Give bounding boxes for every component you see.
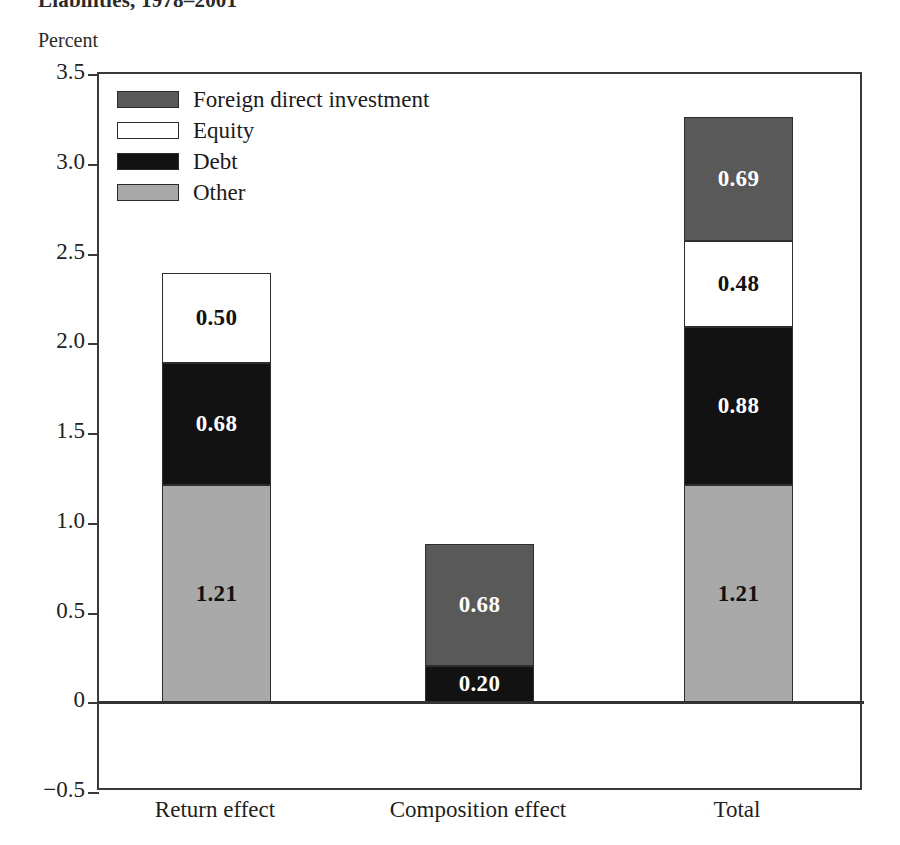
y-axis-tick-label: 0.5 (5, 598, 85, 624)
bar-segment-other[interactable]: 1.21 (162, 485, 271, 702)
y-axis-tick-label: 3.5 (5, 59, 85, 85)
bar-value-label: 1.21 (196, 581, 237, 607)
figure-title: Liabilities, 1978–2001 (38, 0, 237, 13)
legend-item-equity: Equity (117, 115, 429, 146)
bar-segment-debt[interactable]: 0.20 (425, 666, 534, 702)
legend-item-other: Other (117, 177, 429, 208)
y-axis-tick-label: 3.0 (5, 149, 85, 175)
y-axis-tick-label: 2.0 (5, 328, 85, 354)
bar-value-label: 0.48 (718, 271, 759, 297)
legend-label-other: Other (193, 180, 245, 206)
y-axis-tick (88, 254, 99, 256)
y-axis-tick-label: 2.5 (5, 239, 85, 265)
y-axis-tick-label: 0 (5, 687, 85, 713)
legend-label-debt: Debt (193, 149, 238, 175)
bar-value-label: 0.68 (459, 592, 500, 618)
bar-value-label: 0.20 (459, 671, 500, 697)
bar-value-label: 0.68 (196, 411, 237, 437)
y-axis-tick (88, 523, 99, 525)
plot-area: Foreign direct investment Equity Debt Ot… (97, 72, 862, 790)
bar-value-label: 0.50 (196, 305, 237, 331)
y-axis-tick-label: 1.5 (5, 418, 85, 444)
legend-item-debt: Debt (117, 146, 429, 177)
bar-value-label: 0.69 (718, 166, 759, 192)
legend-label-fdi: Foreign direct investment (193, 87, 429, 113)
y-axis-unit-label: Percent (38, 29, 98, 52)
bar-value-label: 1.21 (718, 581, 759, 607)
legend-swatch-other (117, 184, 179, 201)
y-axis-tick (88, 433, 99, 435)
y-axis-tick (88, 343, 99, 345)
y-axis-tick-label: −0.5 (5, 777, 85, 803)
y-axis-tick (88, 164, 99, 166)
y-axis-tick (88, 792, 99, 794)
legend-swatch-debt (117, 153, 179, 170)
legend-label-equity: Equity (193, 118, 254, 144)
bar-segment-fdi[interactable]: 0.69 (684, 117, 793, 241)
bar-segment-debt[interactable]: 0.88 (684, 327, 793, 485)
legend-item-foreign-direct-investment: Foreign direct investment (117, 84, 429, 115)
x-axis-label-total: Total (714, 797, 761, 823)
bar-segment-other[interactable]: 1.21 (684, 485, 793, 702)
bar-segment-debt[interactable]: 0.68 (162, 363, 271, 485)
bar-segment-equity[interactable]: 0.48 (684, 241, 793, 327)
y-axis-tick (88, 74, 99, 76)
legend-swatch-fdi (117, 91, 179, 108)
bar-value-label: 0.88 (718, 393, 759, 419)
legend-swatch-equity (117, 122, 179, 139)
chart-legend: Foreign direct investment Equity Debt Ot… (117, 84, 429, 208)
x-axis-label-return-effect: Return effect (155, 797, 275, 823)
y-axis-tick (88, 702, 99, 704)
bar-segment-equity[interactable]: 0.50 (162, 273, 271, 363)
y-axis-tick-label: 1.0 (5, 508, 85, 534)
y-axis-tick (88, 613, 99, 615)
x-axis-label-composition-effect: Composition effect (390, 797, 567, 823)
bar-segment-fdi[interactable]: 0.68 (425, 544, 534, 666)
